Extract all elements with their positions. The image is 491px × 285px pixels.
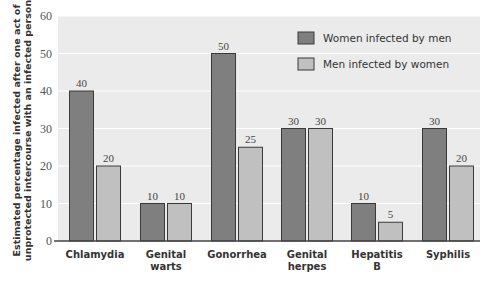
y-tick-label: 10 <box>40 197 52 211</box>
legend-label: Women infected by men <box>323 32 452 44</box>
category-label: Gonorrhea <box>207 249 267 260</box>
bar-value-label: 5 <box>388 208 394 220</box>
y-axis-label: Estimated percentage infected after one … <box>11 0 33 261</box>
category-label: Chlamydia <box>66 249 125 260</box>
bar-value-label: 50 <box>218 40 230 52</box>
y-tick-label: 60 <box>40 9 52 23</box>
bar-value-label: 20 <box>103 152 115 164</box>
category-labels: ChlamydiaGenitalwartsGonorrheaGenitalher… <box>66 249 471 272</box>
bar <box>282 129 306 242</box>
bar <box>239 147 263 241</box>
legend-swatch <box>298 58 314 70</box>
bar-value-label: 30 <box>429 115 441 127</box>
y-axis-ticks: 0102030405060 <box>40 9 52 248</box>
bar-chart: 0102030405060 40201010502530301053020 Ch… <box>0 0 491 285</box>
bar-value-label: 10 <box>174 190 186 202</box>
bar-value-label: 30 <box>315 115 327 127</box>
bar <box>423 129 447 242</box>
category-label: Syphilis <box>426 249 470 260</box>
bar <box>141 204 165 242</box>
y-tick-label: 50 <box>40 47 52 61</box>
bar-value-label: 40 <box>76 77 88 89</box>
bar <box>379 222 403 241</box>
bar-value-label: 30 <box>288 115 300 127</box>
y-axis-title: Estimated percentage infected after one … <box>11 0 33 261</box>
bar <box>450 166 474 241</box>
bar-value-label: 20 <box>456 152 468 164</box>
bar-value-label: 10 <box>147 190 159 202</box>
legend-label: Men infected by women <box>323 58 449 70</box>
y-tick-label: 30 <box>40 122 52 136</box>
bar <box>168 204 192 242</box>
category-label: Genitalwarts <box>146 249 187 272</box>
category-label: Genitalherpes <box>287 249 328 272</box>
y-tick-label: 40 <box>40 84 52 98</box>
category-label: HepatitisB <box>351 249 402 272</box>
y-tick-label: 0 <box>46 234 52 248</box>
bar-value-label: 25 <box>245 133 257 145</box>
bar <box>70 91 94 241</box>
legend-swatch <box>298 32 314 44</box>
bar <box>212 54 236 242</box>
bar-value-label: 10 <box>358 190 370 202</box>
bar <box>352 204 376 242</box>
bar <box>97 166 121 241</box>
bar <box>309 129 333 242</box>
y-tick-label: 20 <box>40 159 52 173</box>
